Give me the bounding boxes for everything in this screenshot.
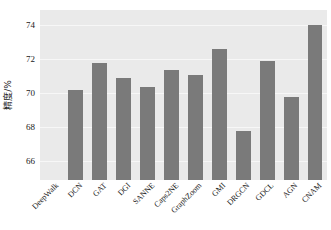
bar	[212, 49, 227, 180]
bar	[188, 75, 203, 180]
x-axis: DeepWalkDCNGATDGISANNECaps2NEGraphZoomGM…	[40, 181, 327, 230]
y-tick-label: 72	[26, 54, 35, 64]
bar-series	[40, 10, 327, 180]
bar	[116, 78, 131, 180]
bar	[92, 63, 107, 180]
bar	[308, 25, 323, 180]
bar	[164, 70, 179, 180]
y-axis-label: 精度/%	[1, 65, 14, 125]
y-tick-label: 70	[26, 88, 35, 98]
chart-figure: 精度/% 6668707274 DeepWalkDCNGATDGISANNECa…	[0, 0, 331, 230]
y-tick-label: 68	[26, 122, 35, 132]
x-tick-label: CNAM	[275, 181, 324, 230]
y-tick-label: 74	[26, 20, 35, 30]
plot-area	[40, 10, 327, 180]
bar	[284, 97, 299, 180]
bar	[68, 90, 83, 180]
y-axis: 精度/% 6668707274	[0, 10, 40, 180]
bar	[140, 87, 155, 181]
bar	[236, 131, 251, 180]
y-tick-label: 66	[26, 156, 35, 166]
bar	[260, 61, 275, 180]
